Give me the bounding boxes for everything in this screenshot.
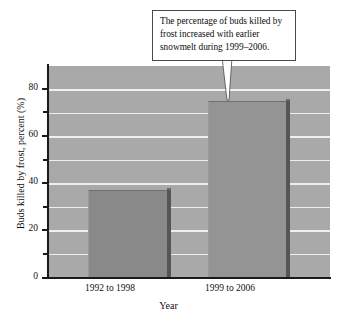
x-axis-title: Year xyxy=(0,300,337,311)
gridline-80 xyxy=(48,89,330,91)
bar-front-face xyxy=(88,190,168,278)
y-tick-minor-30 xyxy=(43,206,47,208)
callout-annotation-text: The percentage of buds killed by frost i… xyxy=(160,16,282,52)
y-tick-minor-50 xyxy=(43,159,47,161)
y-tick-minor-10 xyxy=(43,253,47,255)
y-tick-40 xyxy=(42,182,47,184)
x-tick-label-1992-to-1998: 1992 to 1998 xyxy=(50,283,170,293)
callout-annotation-box: The percentage of buds killed by frost i… xyxy=(152,10,296,61)
y-axis-line xyxy=(47,64,49,279)
bar-side-face xyxy=(167,190,171,277)
bar-side-face xyxy=(286,101,290,277)
y-axis-title: Buds killed by frost, percent (%) xyxy=(15,59,26,269)
bar-1992-to-1998[interactable] xyxy=(88,190,167,277)
x-tick-label-1999-to-2006: 1999 to 2006 xyxy=(170,283,290,293)
bar-1999-to-2006[interactable] xyxy=(208,101,286,277)
plot-area xyxy=(48,66,330,277)
y-tick-60 xyxy=(42,135,47,137)
y-tick-0 xyxy=(42,277,47,279)
x-axis-line xyxy=(47,277,331,279)
y-tick-80 xyxy=(42,88,47,90)
y-tick-label-0-wrap: 0 xyxy=(8,272,38,282)
bar-chart-figure: 0 20 40 60 80 1992 to 1998 1999 to 2006 … xyxy=(0,0,337,321)
y-tick-minor-70 xyxy=(43,111,47,113)
callout-pointer-icon xyxy=(196,57,240,101)
y-tick-20 xyxy=(42,229,47,231)
bar-front-face xyxy=(208,101,287,278)
y-tick-label-0: 0 xyxy=(12,272,38,282)
